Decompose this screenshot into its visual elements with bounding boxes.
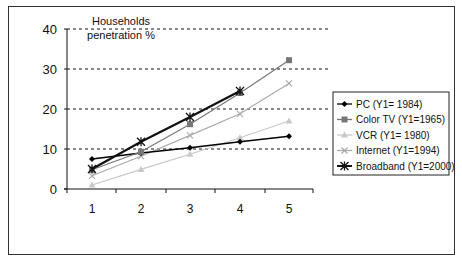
data-series [88,57,293,187]
x-tick-label: 1 [89,202,96,216]
diamond-marker-icon [286,133,292,139]
legend-label: Internet (Y1=1994) [356,145,440,156]
diamond-marker-icon [187,145,193,151]
x-marker-icon [89,173,95,179]
legend-label: Broadband (Y1=2000) [356,161,455,172]
series-internet [89,80,292,178]
x-marker-icon [237,111,243,117]
y-axis-title-line2: penetration % [87,29,155,41]
gridlines [67,29,328,149]
x-tick-label: 5 [286,202,293,216]
square-marker-icon [286,57,292,63]
series-pc [89,133,292,162]
square-marker-icon [187,121,193,127]
star-marker-icon [137,137,145,146]
x-tick-label: 3 [187,202,194,216]
y-tick-label: 10 [43,142,57,157]
series-vcr [89,118,293,188]
x-marker-icon [187,132,193,138]
triangle-marker-icon [286,118,293,124]
y-tick-label: 0 [50,182,57,197]
y-tick-label: 20 [43,102,57,117]
legend-label: Color TV (Y1=1965) [356,114,445,125]
y-axis-tick-labels: 010203040 [43,22,57,197]
square-marker-icon [342,117,348,123]
legend: PC (Y1= 1984)Color TV (Y1=1965)VCR (Y1= … [333,92,455,175]
y-axis-title-line1: Households [92,15,151,27]
series-broadband [88,87,244,174]
legend-label: VCR (Y1= 1980) [356,130,430,141]
axes [64,29,313,193]
x-tick-label: 2 [138,202,145,216]
legend-label: PC (Y1= 1984) [356,99,422,110]
star-marker-icon [186,113,194,122]
diamond-marker-icon [89,156,95,162]
y-tick-label: 40 [43,22,57,37]
x-tick-label: 4 [237,202,244,216]
y-tick-label: 30 [43,62,57,77]
x-marker-icon [286,80,292,86]
line-chart: 010203040 12345 Households penetration %… [0,0,462,274]
square-marker-icon [138,149,144,155]
x-axis-tick-labels: 12345 [89,202,293,216]
